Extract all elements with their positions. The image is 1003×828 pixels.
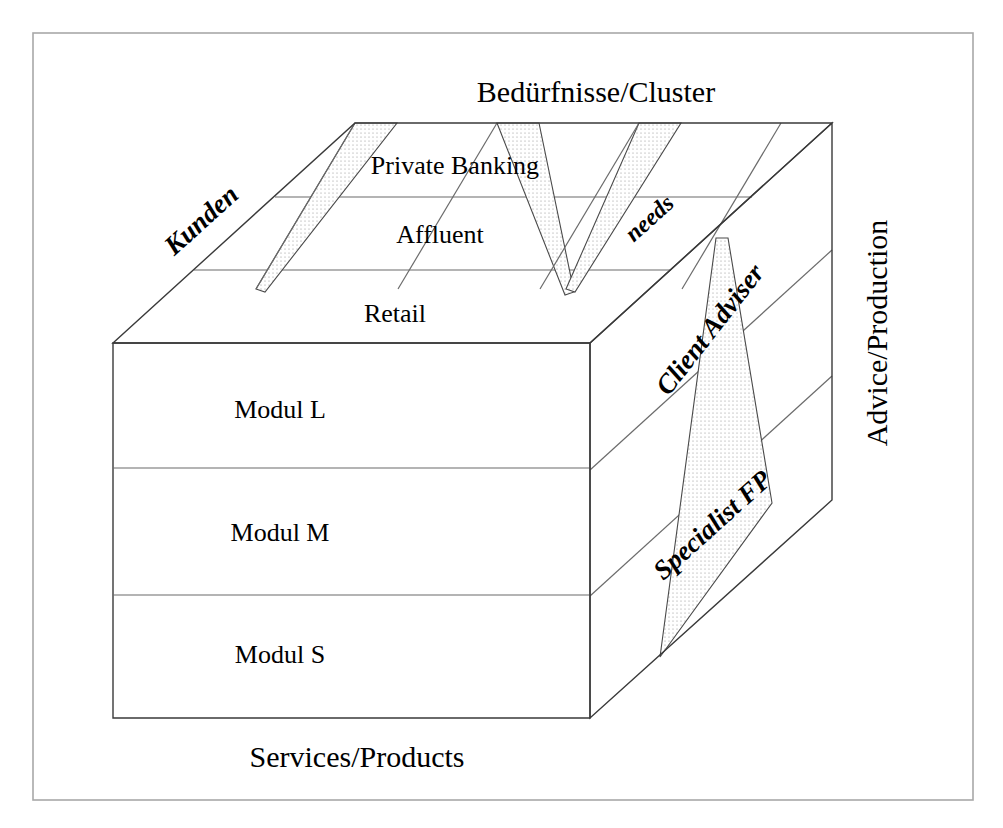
top-row-label-private-banking: Private Banking xyxy=(371,151,539,180)
top-row-label-retail: Retail xyxy=(364,299,426,328)
front-row-label-modul-s: Modul S xyxy=(235,640,325,669)
front-face-surface xyxy=(113,343,590,718)
top-row-label-affluent: Affluent xyxy=(396,220,484,249)
cube-diagram-svg: Bedürfnisse/Cluster Services/Products Ku… xyxy=(0,0,1003,828)
front-row-label-modul-m: Modul M xyxy=(231,518,330,547)
axis-label-bottom: Services/Products xyxy=(250,740,465,773)
front-row-label-modul-l: Modul L xyxy=(234,395,326,424)
figure-root: Bedürfnisse/Cluster Services/Products Ku… xyxy=(0,0,1003,828)
axis-label-top: Bedürfnisse/Cluster xyxy=(477,75,715,108)
axis-label-right: Advice/Production xyxy=(860,220,893,447)
